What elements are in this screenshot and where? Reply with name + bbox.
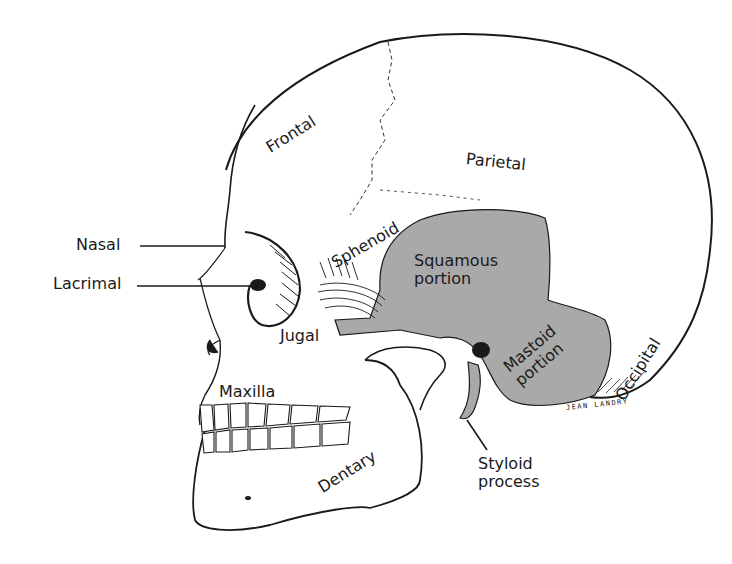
label-jugal: Jugal <box>280 327 319 345</box>
label-squamous-portion: Squamous portion <box>414 252 498 289</box>
forehead-outline <box>225 105 255 248</box>
lacrimal-fossa <box>250 279 266 291</box>
label-maxilla: Maxilla <box>219 383 275 401</box>
squamous-suture <box>380 190 480 200</box>
teeth <box>200 403 350 453</box>
skull-diagram: Frontal Parietal Sphenoid Squamous porti… <box>0 0 732 564</box>
orbit-hatching <box>270 245 298 316</box>
mental-foramen <box>245 496 251 500</box>
sphenoid-hatching <box>318 258 385 318</box>
auditory-meatus <box>472 342 490 358</box>
nose-outline <box>198 248 225 355</box>
ramus-outline <box>365 347 445 410</box>
styloid-process-shape <box>460 362 480 419</box>
label-nasal: Nasal <box>76 236 120 254</box>
label-styloid-process: Styloid process <box>478 455 539 492</box>
label-lacrimal: Lacrimal <box>53 275 121 293</box>
coronal-suture <box>350 42 395 215</box>
orbit <box>245 232 300 326</box>
styloid-leader-line <box>467 420 487 450</box>
